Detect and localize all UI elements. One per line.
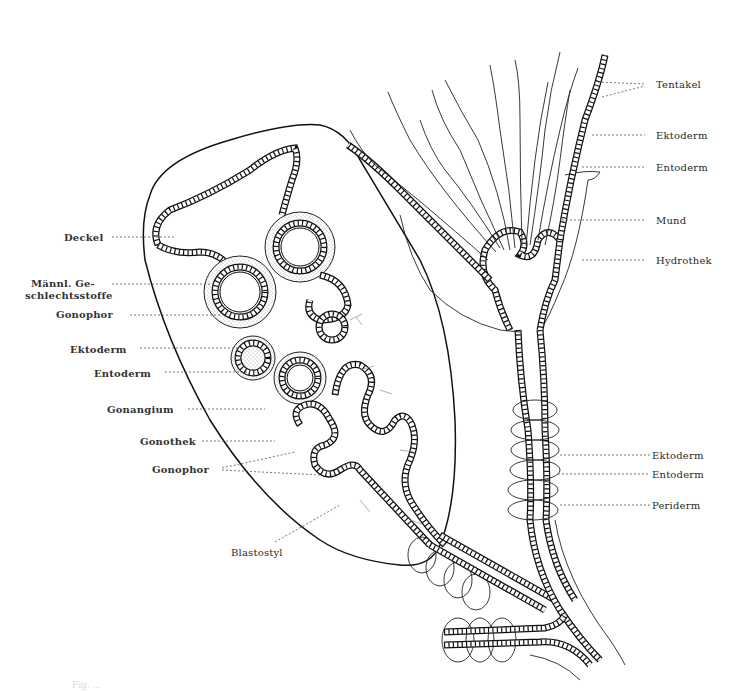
label-blastostyl: Blastostyl	[231, 547, 283, 558]
label-gonothek: Gonothek	[140, 436, 196, 447]
label-maennl-geschlechtsstoffe-2: schlechtsstoffe	[25, 290, 113, 301]
label-hydrothek: Hydrothek	[656, 255, 712, 266]
label-gonangium: Gonangium	[107, 404, 174, 415]
label-periderm: Periderm	[652, 500, 700, 511]
label-ektoderm-upper-right: Ektoderm	[656, 130, 708, 141]
label-deckel: Deckel	[64, 232, 103, 243]
main-stem	[508, 330, 625, 665]
gonophores	[204, 212, 348, 404]
figure-caption-fragment: Fig. ...	[72, 680, 101, 690]
label-entoderm-lower-right: Entoderm	[652, 469, 704, 480]
tentacles	[348, 52, 605, 280]
label-gonophor-lower: Gonophor	[152, 464, 209, 475]
label-entoderm-upper-right: Entoderm	[656, 162, 708, 173]
label-ektoderm-lower-right: Ektoderm	[652, 450, 704, 461]
label-gonophor-upper: Gonophor	[56, 309, 113, 320]
leader-lines-right	[558, 82, 650, 505]
label-tentakel: Tentakel	[656, 79, 701, 90]
hypostome	[483, 230, 560, 330]
label-mund: Mund	[656, 215, 686, 226]
label-maennl-geschlechtsstoffe-1: Männl. Ge-	[31, 278, 95, 289]
label-ektoderm-left: Ektoderm	[70, 344, 127, 355]
label-entoderm-left: Entoderm	[94, 368, 151, 379]
